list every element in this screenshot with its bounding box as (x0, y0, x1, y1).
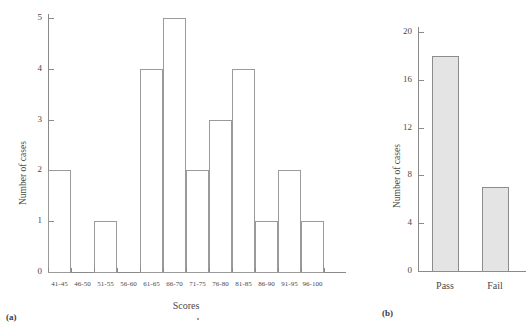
histogram-bar (278, 170, 301, 273)
y-axis-title-b: Number of cases (392, 144, 402, 208)
x-tick-a-5 (163, 268, 164, 272)
histogram-bar (255, 221, 278, 273)
histogram-bar (209, 120, 232, 273)
y-tick-a-3 (49, 120, 54, 121)
x-tick-a-7 (209, 268, 210, 272)
x-tick-a-6 (186, 268, 187, 272)
histogram-bar (232, 69, 255, 273)
y-tick-b-12 (419, 128, 424, 129)
y-tick-label-a-1: 1 (22, 216, 42, 225)
y-axis-title-a: Number of cases (18, 141, 28, 205)
x-tick-a-9 (255, 268, 256, 272)
x-tick-label-a-11: 96-100 (293, 281, 333, 288)
y-tick-a-4 (49, 69, 54, 70)
x-tick-a-11 (301, 268, 302, 272)
y-tick-label-b-16: 16 (392, 75, 412, 84)
panel-caption-a: (a) (6, 312, 17, 322)
y-tick-b-8 (419, 175, 424, 176)
histogram-bar (163, 18, 186, 273)
x-tick-a-0 (48, 268, 49, 272)
histogram-bar (94, 221, 117, 273)
y-tick-b-4 (419, 223, 424, 224)
panel-caption-b: (b) (382, 308, 393, 318)
x-tick-a-4 (140, 268, 141, 272)
bar-chart-panel-b: 048121620PassFail Number of cases (b) (380, 0, 526, 329)
x-tick-label-b-1: Fail (470, 281, 520, 291)
stray-dot-mark (197, 318, 199, 320)
y-tick-b-16 (419, 80, 424, 81)
x-tick-a-3 (117, 268, 118, 272)
y-tick-b-20 (419, 32, 424, 33)
x-tick-a-10 (278, 268, 279, 272)
bar-fail (482, 187, 509, 272)
histogram-bar (301, 221, 324, 273)
y-axis-line-b (418, 27, 419, 272)
y-tick-label-b-20: 20 (392, 27, 412, 36)
histogram-bar (140, 69, 163, 273)
y-tick-label-a-3: 3 (22, 115, 42, 124)
histogram-bar (186, 170, 209, 273)
x-tick-a-1 (71, 268, 72, 272)
y-tick-a-5 (49, 18, 54, 19)
y-tick-label-b-0: 0 (392, 266, 412, 275)
histogram-bar (48, 170, 71, 273)
y-tick-label-b-12: 12 (392, 123, 412, 132)
x-axis-title-a: Scores (126, 300, 246, 311)
x-tick-a-2 (94, 268, 95, 272)
y-tick-label-a-5: 5 (22, 13, 42, 22)
bar-pass (432, 56, 459, 272)
x-tick-a-8 (232, 268, 233, 272)
y-tick-label-a-4: 4 (22, 64, 42, 73)
histogram-panel-a: 01234541-4546-5051-5556-6061-6566-7071-7… (0, 0, 380, 329)
y-tick-b-0 (419, 271, 424, 272)
x-tick-a-end (324, 268, 325, 272)
x-tick-label-b-0: Pass (420, 281, 470, 291)
y-tick-label-b-4: 4 (392, 218, 412, 227)
y-tick-label-a-0: 0 (22, 267, 42, 276)
